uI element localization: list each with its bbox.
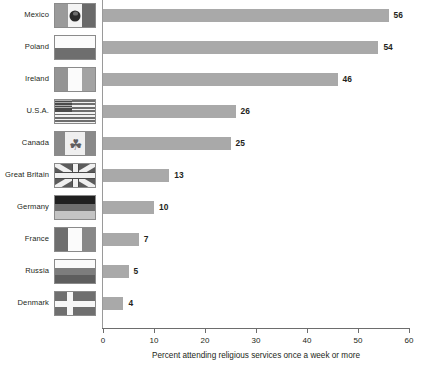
- bar-value-label: 10: [159, 201, 168, 214]
- bar: [103, 41, 378, 54]
- x-tick-label: 50: [354, 336, 363, 346]
- bar-value-label: 26: [241, 105, 250, 118]
- bar-value-label: 4: [128, 297, 133, 310]
- bar-value-label: 46: [343, 73, 352, 86]
- bar: [103, 201, 154, 214]
- chart-row: Poland 54: [0, 32, 429, 64]
- x-tick-mark: [154, 329, 155, 333]
- category-label: Mexico: [0, 8, 49, 21]
- flag-france-icon: [54, 227, 96, 252]
- x-tick-mark: [256, 329, 257, 333]
- bar-value-label: 54: [383, 41, 392, 54]
- chart-row: Germany 10: [0, 192, 429, 224]
- chart-row: Great Britain 13: [0, 160, 429, 192]
- maple-leaf-icon: ☘: [69, 136, 82, 151]
- flag-ireland-icon: [54, 67, 96, 92]
- bar-value-label: 13: [174, 169, 183, 182]
- flag-denmark-icon: [54, 291, 96, 316]
- flag-poland-icon: [54, 35, 96, 60]
- y-axis-line: [102, 0, 103, 329]
- bar: [103, 137, 231, 150]
- flag-germany-icon: [54, 195, 96, 220]
- flag-usa-icon: [54, 99, 96, 124]
- flag-canada-icon: ☘: [54, 131, 96, 156]
- category-label: France: [0, 232, 49, 245]
- flag-mexico-icon: [54, 3, 96, 28]
- bar: [103, 9, 389, 22]
- bar: [103, 73, 338, 86]
- x-axis-title: Percent attending religious services onc…: [103, 350, 409, 361]
- x-tick-label: 20: [201, 336, 210, 346]
- chart-row: Mexico 56: [0, 0, 429, 32]
- bar: [103, 105, 236, 118]
- x-tick-mark: [358, 329, 359, 333]
- category-label: Poland: [0, 40, 49, 53]
- chart-row: Denmark 4: [0, 288, 429, 320]
- category-label: U.S.A.: [0, 104, 49, 117]
- x-tick-mark: [103, 329, 104, 333]
- x-tick-mark: [409, 329, 410, 333]
- category-label: Canada: [0, 136, 49, 149]
- x-tick-label: 40: [303, 336, 312, 346]
- x-tick-label: 10: [150, 336, 159, 346]
- bar-value-label: 5: [134, 265, 139, 278]
- x-tick-label: 30: [252, 336, 261, 346]
- category-label: Great Britain: [0, 168, 49, 181]
- category-label: Russia: [0, 264, 49, 277]
- category-label: Germany: [0, 200, 49, 213]
- flag-great-britain-icon: [54, 163, 96, 188]
- bar: [103, 297, 123, 310]
- bar-value-label: 25: [236, 137, 245, 150]
- chart-row: U.S.A. 26: [0, 96, 429, 128]
- flag-russia-icon: [54, 259, 96, 284]
- footnote: [12, 369, 312, 377]
- x-tick-label: 60: [405, 336, 414, 346]
- bar: [103, 265, 129, 278]
- chart-row: France 7: [0, 224, 429, 256]
- bar-chart: Mexico 56 Poland 54 Ireland 46 U.S.A. 26: [0, 0, 429, 377]
- chart-row: Ireland 46: [0, 64, 429, 96]
- mexico-emblem-icon: [70, 10, 81, 21]
- bar-value-label: 7: [144, 233, 149, 246]
- x-tick-mark: [205, 329, 206, 333]
- x-tick-label: 0: [101, 336, 105, 346]
- bar-value-label: 56: [394, 9, 403, 22]
- bar: [103, 169, 169, 182]
- x-tick-mark: [307, 329, 308, 333]
- category-label: Ireland: [0, 72, 49, 85]
- chart-row: Canada ☘ 25: [0, 128, 429, 160]
- chart-row: Russia 5: [0, 256, 429, 288]
- bar: [103, 233, 139, 246]
- category-label: Denmark: [0, 296, 49, 309]
